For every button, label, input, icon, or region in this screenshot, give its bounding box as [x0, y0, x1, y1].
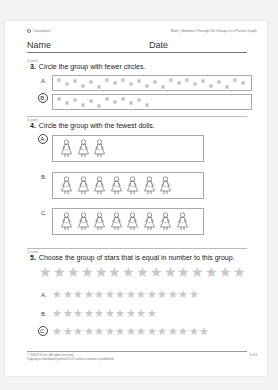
star-icon: ★	[163, 264, 177, 280]
q3-text: Circle the group with fewer circles.	[39, 63, 146, 70]
q5-option-c-stars[interactable]: ★★★★★★★★★★★★★★★	[52, 325, 210, 338]
circle-dot	[113, 100, 117, 104]
star-icon: ★	[63, 307, 74, 320]
q4-option-a-box[interactable]	[52, 135, 204, 162]
circle-dot	[73, 98, 77, 102]
q4-number: 4.	[30, 122, 36, 129]
doll-icon	[93, 139, 106, 159]
star-icon: ★	[63, 325, 74, 338]
circle-dot	[169, 78, 173, 82]
page-header: Checkpoint Math | Numbers Through 30: Gr…	[27, 29, 257, 33]
star-icon: ★	[178, 288, 189, 301]
doll-icon	[143, 212, 156, 232]
star-icon: ★	[94, 288, 105, 301]
star-icon: ★	[177, 264, 191, 280]
q5-option-b-label[interactable]: B.	[41, 311, 47, 317]
doll-icon	[60, 176, 73, 196]
q5-option-a-stars[interactable]: ★★★★★★★★★★★★★★	[52, 288, 199, 301]
circle-dot	[241, 81, 245, 85]
q4-option-b-label[interactable]: B.	[41, 174, 47, 180]
q3-option-a-label[interactable]: A.	[41, 78, 47, 84]
doll-icon	[60, 139, 73, 159]
circle-dot	[177, 81, 181, 85]
star-icon: ★	[105, 325, 116, 338]
circle-dot	[89, 99, 93, 103]
header-right: Math | Numbers Through 30: Groups in a P…	[171, 29, 257, 33]
circle-dot	[65, 82, 69, 86]
star-icon: ★	[39, 264, 53, 280]
star-icon: ★	[52, 288, 63, 301]
star-icon: ★	[168, 288, 179, 301]
copy-notice: Copying or distributing without K12's wr…	[27, 357, 257, 361]
circle-dot	[57, 97, 61, 101]
reference-star-group: ★★★★★★★★★★★★★★★	[39, 264, 246, 280]
q5-option-c-circled[interactable]: C.	[38, 326, 48, 336]
star-icon: ★	[232, 264, 246, 280]
q3-option-b-circled[interactable]: B.	[38, 93, 48, 103]
doll-icon	[110, 212, 123, 232]
star-icon: ★	[136, 288, 147, 301]
star-icon: ★	[157, 288, 168, 301]
star-icon: ★	[73, 307, 84, 320]
star-icon: ★	[136, 307, 147, 320]
divider	[27, 248, 247, 249]
circle-dot	[73, 79, 77, 83]
q4-prompt: 4.Circle the group with the fewest dolls…	[30, 122, 155, 129]
doll-icon	[126, 176, 139, 196]
doll-icon	[176, 212, 189, 232]
q4-option-c-box[interactable]	[52, 208, 204, 235]
star-icon: ★	[53, 264, 67, 280]
star-icon: ★	[189, 325, 200, 338]
q5-option-a-label[interactable]: A.	[41, 292, 47, 298]
star-icon: ★	[147, 288, 158, 301]
q5-prompt: 5.Choose the group of stars that is equa…	[30, 254, 235, 261]
star-icon: ★	[191, 264, 205, 280]
q3-option-a-box[interactable]	[52, 75, 252, 91]
circle-dot	[97, 104, 101, 108]
star-icon: ★	[147, 307, 158, 320]
circle-dot	[185, 78, 189, 82]
q4-option-c-label[interactable]: C.	[41, 210, 47, 216]
circle-dot	[145, 103, 149, 107]
star-icon: ★	[168, 325, 179, 338]
star-icon: ★	[115, 325, 126, 338]
q5-option-b-stars[interactable]: ★★★★★★★★★★	[52, 307, 157, 320]
circle-dot	[217, 80, 221, 84]
circle-dot	[113, 81, 117, 85]
doll-icon	[77, 212, 90, 232]
star-icon: ★	[205, 264, 219, 280]
doll-icon	[77, 176, 90, 196]
star-icon: ★	[126, 288, 137, 301]
footer-divider	[27, 351, 247, 352]
star-icon: ★	[94, 264, 108, 280]
circle-dot	[153, 80, 157, 84]
footer: © 2008 K12 Inc. All rights reserved. Cop…	[27, 353, 257, 361]
name-date-line: Name Date	[27, 40, 247, 53]
star-icon: ★	[63, 288, 74, 301]
star-icon: ★	[94, 325, 105, 338]
star-icon: ★	[149, 264, 163, 280]
star-icon: ★	[52, 325, 63, 338]
circle-dot	[193, 82, 197, 86]
doll-icon	[143, 176, 156, 196]
star-icon: ★	[136, 325, 147, 338]
q3-option-b-box[interactable]	[52, 94, 252, 110]
doll-icon	[77, 139, 90, 159]
circle-dot	[121, 78, 125, 82]
star-icon: ★	[52, 307, 63, 320]
q4-option-b-box[interactable]	[52, 172, 204, 199]
star-icon: ★	[94, 307, 105, 320]
doll-icon	[126, 212, 139, 232]
circle-dot	[137, 79, 141, 83]
q5-option-c-label: C.	[40, 328, 46, 334]
header-left: Checkpoint	[33, 29, 51, 33]
circle-dot	[121, 97, 125, 101]
circle-dot	[105, 97, 109, 101]
star-icon: ★	[199, 325, 210, 338]
q5-number: 5.	[30, 254, 36, 261]
star-icon: ★	[126, 325, 137, 338]
date-label: Date	[149, 40, 168, 50]
star-icon: ★	[115, 288, 126, 301]
q4-option-a-circled[interactable]: A.	[38, 134, 48, 144]
circle-dot	[65, 101, 69, 105]
